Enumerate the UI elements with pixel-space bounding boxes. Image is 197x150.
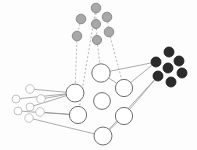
graph-edge: [75, 41, 77, 84]
graph-edge: [33, 119, 94, 134]
graph-node-light[interactable]: [26, 85, 35, 94]
graph-node-gray[interactable]: [76, 14, 86, 24]
graph-node-gray[interactable]: [102, 12, 112, 22]
graph-node-hub[interactable]: [115, 79, 132, 96]
graph-node-dark[interactable]: [174, 56, 184, 66]
graph-node-hub[interactable]: [94, 93, 111, 110]
graph-node-dark[interactable]: [177, 68, 187, 78]
node-layer: [12, 3, 187, 145]
network-diagram: [0, 0, 197, 150]
graph-node-hub[interactable]: [69, 106, 86, 123]
graph-node-dark[interactable]: [163, 63, 173, 73]
graph-node-light[interactable]: [37, 95, 46, 104]
graph-node-dark[interactable]: [153, 71, 163, 81]
graph-edge: [98, 45, 100, 64]
graph-edge: [110, 37, 122, 80]
graph-node-dark[interactable]: [164, 47, 174, 57]
graph-node-hub[interactable]: [92, 64, 110, 82]
graph-edge: [34, 89, 66, 92]
graph-node-gray[interactable]: [91, 19, 100, 28]
graph-node-light[interactable]: [26, 103, 34, 111]
graph-node-gray[interactable]: [104, 27, 114, 37]
graph-edge: [130, 80, 155, 110]
graph-node-hub[interactable]: [94, 127, 112, 145]
graph-node-light[interactable]: [12, 95, 20, 103]
graph-edge: [78, 24, 80, 32]
graph-node-gray[interactable]: [72, 31, 82, 41]
graph-edge: [131, 65, 152, 82]
graph-edge: [110, 122, 118, 130]
graph-canvas: [0, 0, 197, 150]
graph-node-light[interactable]: [36, 108, 45, 117]
graph-node-hub[interactable]: [115, 107, 132, 124]
graph-node-gray[interactable]: [91, 3, 101, 13]
graph-edge: [109, 78, 117, 83]
graph-edge: [110, 63, 151, 71]
graph-edge: [108, 22, 109, 27]
graph-node-dark[interactable]: [166, 77, 176, 87]
graph-node-hub[interactable]: [66, 84, 84, 102]
graph-node-gray[interactable]: [92, 35, 101, 44]
graph-node-dark[interactable]: [151, 57, 161, 67]
graph-node-light[interactable]: [25, 114, 33, 122]
graph-node-light[interactable]: [14, 107, 22, 115]
